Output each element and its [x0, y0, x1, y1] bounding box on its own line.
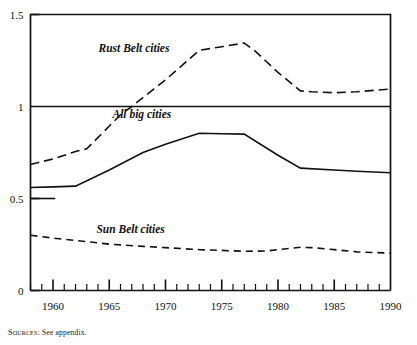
- source-note-text: See appendix.: [40, 328, 87, 337]
- x-tick-label: 1970: [155, 300, 178, 312]
- series-annotations: Rust Belt citiesAll big citiesSun Belt c…: [96, 42, 171, 234]
- annotation-rust-belt-cities: Rust Belt cities: [98, 42, 170, 54]
- data-series: [31, 43, 391, 253]
- series-line-all-big-cities: [31, 133, 391, 187]
- y-tick-label: 1.5: [10, 9, 24, 21]
- x-axis-tick-labels: 1960196519701975198019851990: [42, 300, 402, 312]
- x-tick-label: 1960: [42, 300, 65, 312]
- series-line-sun-belt-cities: [31, 235, 391, 253]
- y-axis-ticks: [31, 15, 40, 291]
- y-tick-label: 0: [18, 285, 24, 297]
- series-line-rust-belt-cities: [31, 43, 391, 164]
- y-tick-label: 0.5: [10, 193, 24, 205]
- x-tick-label: 1980: [267, 300, 290, 312]
- source-note-prefix: Sources:: [8, 328, 40, 337]
- x-tick-label: 1990: [380, 300, 403, 312]
- chart-figure: 1960196519701975198019851990 00.511.5 Ru…: [0, 0, 417, 345]
- annotation-sun-belt-cities: Sun Belt cities: [96, 223, 165, 235]
- y-tick-label: 1: [18, 101, 24, 113]
- y-axis-tick-labels: 00.511.5: [10, 9, 24, 297]
- x-tick-label: 1975: [211, 300, 234, 312]
- line-chart: 1960196519701975198019851990 00.511.5 Ru…: [0, 0, 417, 345]
- source-note: Sources: See appendix.: [8, 328, 87, 337]
- x-tick-label: 1965: [98, 300, 121, 312]
- x-axis-ticks: [31, 280, 380, 291]
- x-tick-label: 1985: [323, 300, 346, 312]
- annotation-all-big-cities: All big cities: [111, 108, 171, 121]
